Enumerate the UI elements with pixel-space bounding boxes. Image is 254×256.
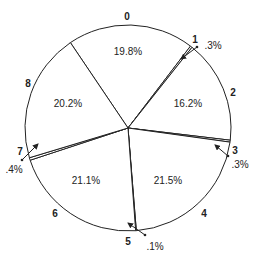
value-label-1: .3% xyxy=(204,40,221,51)
category-label-0: 0 xyxy=(124,11,130,22)
value-label-2: 16.2% xyxy=(174,98,202,109)
category-label-1: 1 xyxy=(192,34,198,45)
category-label-6: 6 xyxy=(52,208,58,219)
pointer-dot-icon xyxy=(144,234,147,237)
category-label-3: 3 xyxy=(232,145,238,156)
category-label-8: 8 xyxy=(25,78,31,89)
category-label-2: 2 xyxy=(230,87,236,98)
category-label-4: 4 xyxy=(201,208,207,219)
pointer-dot-icon xyxy=(196,46,199,49)
value-label-7: .4% xyxy=(5,164,22,175)
value-label-6: 21.1% xyxy=(72,175,100,186)
value-label-5: .1% xyxy=(146,241,163,252)
category-label-7: 7 xyxy=(17,146,23,157)
value-label-3: .3% xyxy=(231,159,248,170)
value-label-8: 20.2% xyxy=(54,98,82,109)
category-label-5: 5 xyxy=(125,236,131,247)
pie-chart: 012345678 19.8%.3%16.2%.3%21.5%.1%21.1%.… xyxy=(0,0,254,256)
pointer-dot-icon xyxy=(21,159,24,162)
value-label-0: 19.8% xyxy=(114,46,142,57)
pointer-dot-icon xyxy=(227,155,230,158)
value-label-4: 21.5% xyxy=(154,175,182,186)
